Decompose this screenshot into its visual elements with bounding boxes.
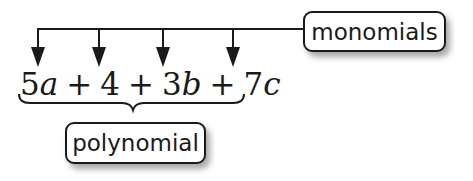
polynomial-label: polynomial	[65, 122, 206, 164]
term-3b: 3b	[162, 66, 202, 102]
plus-operator: +	[210, 66, 236, 102]
plus-operator: +	[128, 66, 154, 102]
term-5a: 5a	[20, 66, 58, 102]
polynomial-expression: 5a+4+3b+7c	[20, 66, 281, 102]
term-7c: 7c	[244, 66, 281, 102]
term-4: 4	[100, 66, 120, 102]
polynomial-label-text: polynomial	[72, 130, 199, 156]
arrow-to-7c	[226, 28, 240, 67]
monomials-label: monomials	[303, 11, 446, 52]
monomials-label-text: monomials	[311, 19, 437, 45]
monomials-polynomial-diagram: 5a+4+3b+7c monomials polynomial	[0, 0, 473, 181]
arrow-to-5a	[31, 28, 45, 67]
arrow-to-3b	[156, 28, 170, 67]
arrow-to-4	[92, 28, 106, 67]
plus-operator: +	[66, 66, 92, 102]
